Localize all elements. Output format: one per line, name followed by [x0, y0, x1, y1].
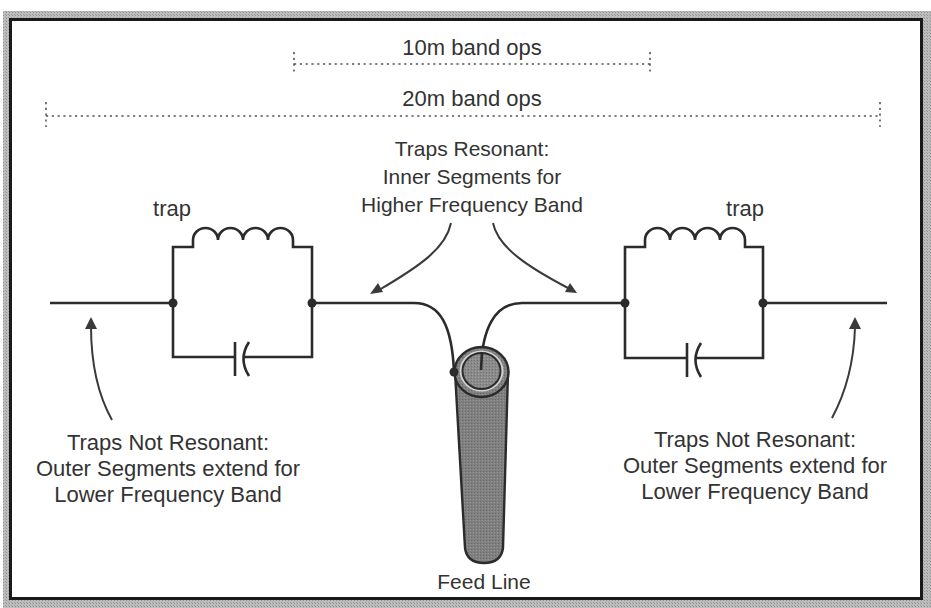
- trap-right-node-inner: [621, 299, 630, 308]
- trap-dipole-diagram: 10m band ops 20m band ops Traps Resonant…: [0, 0, 931, 608]
- outer-caption-left: Traps Not Resonant: Outer Segments exten…: [36, 430, 300, 507]
- outer-caption-left-line-2: Outer Segments extend for: [36, 456, 300, 481]
- feed-line-center-conductor: [481, 352, 482, 370]
- outer-caption-right: Traps Not Resonant: Outer Segments exten…: [623, 427, 887, 504]
- outer-caption-right-line-2: Outer Segments extend for: [623, 453, 887, 478]
- trap-left-node-outer: [169, 299, 178, 308]
- trap-left-label: trap: [153, 196, 191, 221]
- dimension-10m-label: 10m band ops: [402, 35, 541, 60]
- center-caption-line-1: Traps Resonant:: [395, 137, 549, 160]
- outer-caption-left-line-3: Lower Frequency Band: [54, 482, 281, 507]
- outer-caption-right-line-3: Lower Frequency Band: [641, 479, 868, 504]
- outer-caption-left-line-1: Traps Not Resonant:: [67, 430, 269, 455]
- dimension-20m-label: 20m band ops: [402, 86, 541, 111]
- center-caption-line-3: Higher Frequency Band: [361, 193, 583, 216]
- feed-line-shield-node: [450, 368, 459, 377]
- center-caption-line-2: Inner Segments for: [383, 165, 562, 188]
- feed-line-label: Feed Line: [437, 570, 530, 593]
- trap-right-label: trap: [726, 196, 764, 221]
- outer-caption-right-line-1: Traps Not Resonant:: [654, 427, 856, 452]
